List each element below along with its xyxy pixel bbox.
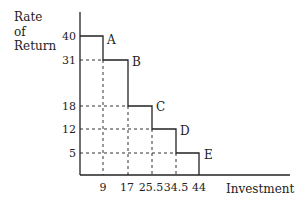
x-axis-label: Investment xyxy=(226,182,295,196)
y-axis-label-line3: Return xyxy=(14,39,56,53)
step-label-e: E xyxy=(204,148,213,162)
step-label-b: B xyxy=(132,55,141,69)
step-label-d: D xyxy=(180,124,190,138)
x-tick-34-5: 34.5 xyxy=(164,181,189,194)
x-tick-9: 9 xyxy=(100,181,107,194)
y-tick-12: 12 xyxy=(62,123,76,136)
y-axis-label-line1: Rate xyxy=(14,10,42,24)
step-label-c: C xyxy=(156,100,165,114)
y-tick-40: 40 xyxy=(62,30,76,43)
x-tick-17: 17 xyxy=(120,181,134,194)
x-tick-25-5: 25.5 xyxy=(139,181,164,194)
y-tick-31: 31 xyxy=(62,54,76,67)
x-tick-44: 44 xyxy=(192,181,206,194)
y-axis-label-line2: of xyxy=(14,25,27,39)
step-label-a: A xyxy=(106,33,116,47)
y-tick-18: 18 xyxy=(62,100,76,113)
rate-of-return-chart: Rate of Return 40 31 18 12 5 9 17 25.5 3… xyxy=(0,0,300,202)
y-tick-5: 5 xyxy=(69,147,76,160)
